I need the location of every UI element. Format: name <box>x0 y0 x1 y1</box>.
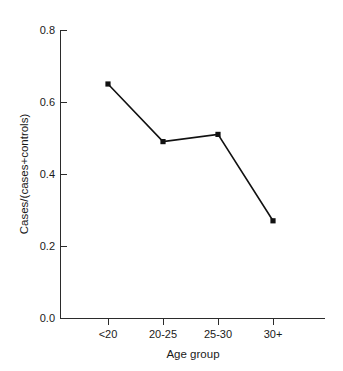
x-axis-ticks <box>109 319 274 326</box>
chart-figure: 0.8 0.6 0.4 0.2 0.0 <20 20-25 25-30 30+ … <box>0 0 343 371</box>
y-axis-tick-labels: 0.8 0.6 0.4 0.2 0.0 <box>40 24 55 324</box>
y-axis-ticks <box>61 31 68 319</box>
data-point-<20 <box>105 81 110 86</box>
line-chart-canvas: 0.8 0.6 0.4 0.2 0.0 <20 20-25 25-30 30+ … <box>0 0 343 371</box>
series-markers <box>105 81 275 223</box>
series-line-cases-ratio <box>108 84 273 221</box>
x-tick-label-2: 20-25 <box>149 328 177 340</box>
data-point-30+ <box>270 218 275 223</box>
x-axis-title: Age group <box>166 348 219 360</box>
data-point-25-30 <box>215 132 220 137</box>
y-tick-label-0.6: 0.6 <box>40 96 55 108</box>
y-tick-label-0.2: 0.2 <box>40 240 55 252</box>
x-tick-label-1: <20 <box>99 328 118 340</box>
y-tick-label-0.0: 0.0 <box>40 312 55 324</box>
data-point-20-25 <box>160 139 165 144</box>
x-tick-label-3: 25-30 <box>204 328 232 340</box>
axis-lines <box>61 30 326 319</box>
y-axis-title: Cases/(cases+controls) <box>18 114 30 235</box>
x-axis-tick-labels: <20 20-25 25-30 30+ <box>99 328 283 340</box>
y-tick-label-0.8: 0.8 <box>40 24 55 36</box>
x-tick-label-4: 30+ <box>264 328 283 340</box>
y-tick-label-0.4: 0.4 <box>40 168 55 180</box>
